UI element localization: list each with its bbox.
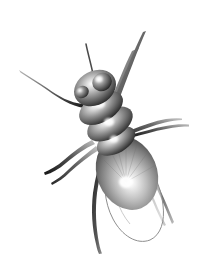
- illustration-canvas: Fly Illustration: [0, 0, 198, 261]
- left-eye-highlight: [78, 88, 82, 92]
- thorax-highlight-2: [104, 118, 114, 126]
- fly-illustration: [0, 0, 198, 261]
- abdomen-highlight: [119, 176, 133, 188]
- thorax-highlight-3: [110, 136, 118, 143]
- head-highlight: [96, 76, 103, 82]
